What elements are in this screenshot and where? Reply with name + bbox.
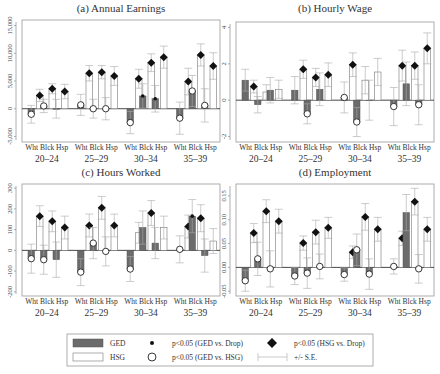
subgroup-labels: Wht Blck Hsp — [289, 297, 332, 306]
ged-vs-hsg-marker — [366, 271, 372, 277]
age-group-label: 20–24 — [35, 154, 59, 164]
legend-diamond-icon — [267, 338, 277, 348]
y-tick-label: 15,000 — [6, 17, 13, 35]
ged-vs-hsg-marker — [78, 102, 84, 108]
subgroup-labels: Wht Blck Hsp — [124, 143, 167, 152]
ged-vs-hsg-marker — [354, 119, 360, 125]
subgroup-labels: Wht Blck Hsp — [338, 297, 381, 306]
ged-vs-hsg-marker — [304, 270, 310, 276]
age-group-label: 25–29 — [84, 308, 108, 318]
legend-diamond-label: p<0.05 (HSG vs. Drop) — [294, 339, 365, 348]
ged-vs-hsg-marker — [90, 240, 96, 246]
ged-vs-hsg-marker — [28, 255, 34, 261]
y-tick-label: 0.10 — [220, 214, 227, 225]
subgroup-labels: Wht Blck Hsp — [25, 297, 68, 306]
legend-dot-icon — [150, 341, 154, 345]
ged-vs-hsg-marker — [90, 106, 96, 112]
ged-vs-hsg-marker — [255, 256, 261, 262]
age-group-label: 20–24 — [249, 154, 273, 164]
y-tick-label: 300 — [6, 183, 13, 193]
panel-4: (d) Employment-0.050.000.050.100.15Wht B… — [220, 166, 434, 318]
subgroup-labels: Wht Blck Hsp — [338, 143, 381, 152]
figure: (a) Annual Earnings-5,00005,00010,00015,… — [0, 0, 440, 374]
ged-vs-hsg-marker — [242, 278, 248, 284]
y-tick-label: -0.05 — [220, 284, 227, 298]
y-tick-label: 5,000 — [6, 74, 13, 89]
legend-ged-label: GED — [110, 339, 126, 348]
y-tick-label: 0.00 — [220, 262, 227, 273]
ged-vs-hsg-marker — [127, 119, 133, 125]
age-group-label: 30–34 — [134, 308, 158, 318]
ged-vs-hsg-marker — [304, 111, 310, 117]
legend-hsg-label: HSG — [110, 353, 126, 362]
ged-vs-hsg-marker — [391, 263, 397, 269]
ged-vs-hsg-marker — [41, 257, 47, 263]
subgroup-labels: Wht Blck Hsp — [124, 297, 167, 306]
y-tick-label: 200 — [6, 204, 13, 214]
panel-title: (b) Hourly Wage — [298, 2, 372, 15]
age-group-label: 35–39 — [183, 308, 207, 318]
age-group-label: 20–24 — [35, 308, 59, 318]
y-tick-label: 0 — [6, 107, 13, 110]
ged-vs-hsg-marker — [189, 88, 195, 94]
age-group-label: 20–24 — [249, 308, 273, 318]
y-tick-label: 4 — [220, 25, 227, 29]
ged-vs-hsg-marker — [78, 269, 84, 275]
subgroup-labels: Wht Blck Hsp — [25, 143, 68, 152]
panel-2: (b) Hourly Wage-2024Wht Blck Hsp20–24Wht… — [220, 2, 434, 164]
subgroup-labels: Wht Blck Hsp — [388, 297, 431, 306]
panel-1: (a) Annual Earnings-5,00005,00010,00015,… — [6, 2, 220, 164]
y-tick-label: -5,000 — [6, 128, 13, 145]
ged-vs-hsg-marker — [416, 102, 422, 108]
ged-vs-hsg-marker — [267, 266, 273, 272]
legend-hsg-swatch — [73, 353, 103, 361]
y-tick-label: 2 — [220, 62, 227, 65]
subgroup-labels: Wht Blck Hsp — [75, 297, 118, 306]
ged-vs-hsg-marker — [391, 103, 397, 109]
subgroup-labels: Wht Blck Hsp — [239, 297, 282, 306]
y-tick-label: -2 — [220, 134, 227, 139]
legend-se-label: +/- S.E. — [294, 353, 317, 362]
subgroup-labels: Wht Blck Hsp — [239, 143, 282, 152]
age-group-label: 35–39 — [397, 154, 421, 164]
age-group-label: 30–34 — [348, 308, 372, 318]
ged-vs-hsg-marker — [416, 266, 422, 272]
panel-title: (c) Hours Worked — [82, 166, 161, 179]
ged-vs-hsg-marker — [177, 115, 183, 121]
ged-vs-hsg-marker — [103, 248, 109, 254]
subgroup-labels: Wht Blck Hsp — [75, 143, 118, 152]
y-tick-label: 0 — [6, 249, 13, 252]
age-group-label: 30–34 — [348, 154, 372, 164]
ged-vs-hsg-marker — [202, 102, 208, 108]
panel-3: (c) Hours Worked-200-1000100200300Wht Bl… — [6, 166, 220, 318]
ged-vs-hsg-marker — [127, 266, 133, 272]
y-tick-label: 100 — [6, 225, 13, 235]
subgroup-labels: Wht Blck Hsp — [388, 143, 431, 152]
ged-vs-drop-marker — [153, 97, 157, 101]
age-group-label: 30–34 — [134, 154, 158, 164]
age-group-label: 25–29 — [298, 308, 322, 318]
y-tick-label: -200 — [6, 286, 13, 298]
ged-vs-hsg-marker — [341, 271, 347, 277]
ged-vs-drop-marker — [141, 94, 145, 98]
subgroup-labels: Wht Blck Hsp — [289, 143, 332, 152]
age-group-label: 25–29 — [84, 154, 108, 164]
age-group-label: 35–39 — [183, 154, 207, 164]
subgroup-labels: Wht Blck Hsp — [174, 143, 217, 152]
legend: GEDHSGp<0.05 (GED vs. Drop)p<0.05 (GED v… — [67, 334, 373, 366]
legend-dot-label: p<0.05 (GED vs. Drop) — [172, 339, 244, 348]
subgroup-labels: Wht Blck Hsp — [174, 297, 217, 306]
y-tick-label: 10,000 — [6, 44, 13, 62]
ged-vs-hsg-marker — [41, 103, 47, 109]
ged-vs-hsg-marker — [354, 247, 360, 253]
ged-vs-drop-marker — [190, 214, 194, 218]
age-group-label: 25–29 — [298, 154, 322, 164]
ged-vs-hsg-marker — [292, 273, 298, 279]
age-group-label: 35–39 — [397, 308, 421, 318]
ged-vs-hsg-marker — [103, 106, 109, 112]
panel-title: (d) Employment — [299, 166, 371, 179]
legend-ged-swatch — [73, 339, 103, 347]
legend-ring-icon — [148, 353, 156, 361]
y-tick-label: -100 — [6, 265, 13, 277]
ged-vs-hsg-marker — [317, 263, 323, 269]
